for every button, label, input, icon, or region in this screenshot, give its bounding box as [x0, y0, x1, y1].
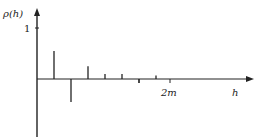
x-axis-arrow-icon — [246, 76, 254, 82]
x-tick-label-2m: 2m — [160, 87, 177, 98]
acf-stems — [54, 51, 156, 102]
acf-chart: ρ(h) 1 2m h — [0, 0, 259, 137]
y-tick-label-1: 1 — [24, 23, 30, 34]
y-axis-label: ρ(h) — [2, 8, 23, 19]
y-axis-arrow-icon — [34, 8, 40, 16]
x-axis-label: h — [232, 87, 238, 98]
